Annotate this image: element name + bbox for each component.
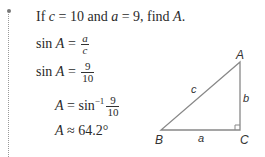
side-b-label: b [243,92,249,104]
vertex-B-label: B [155,133,163,147]
side-c-label: c [191,83,197,95]
side-a-label: a [198,132,204,144]
vertex-C-label: C [240,133,249,147]
vertex-A-label: A [236,48,244,62]
right-triangle-diagram [0,0,265,157]
